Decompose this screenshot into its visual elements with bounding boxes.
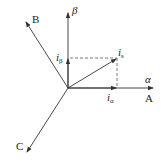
alpha-label: α	[145, 74, 151, 85]
ibeta-sub: β	[59, 57, 63, 65]
ialpha-sub: α	[110, 97, 114, 105]
clarke-diagram	[0, 0, 161, 164]
is-label: is	[118, 47, 124, 60]
ibeta-label: iβ	[56, 52, 63, 65]
is-vector	[68, 59, 116, 88]
b-label: B	[32, 14, 39, 25]
is-sub: s	[121, 52, 124, 60]
a-label: A	[145, 93, 153, 104]
beta-label: β	[72, 5, 77, 16]
c-label: C	[16, 141, 23, 152]
c-axis	[27, 88, 68, 152]
ialpha-label: iα	[107, 92, 114, 105]
